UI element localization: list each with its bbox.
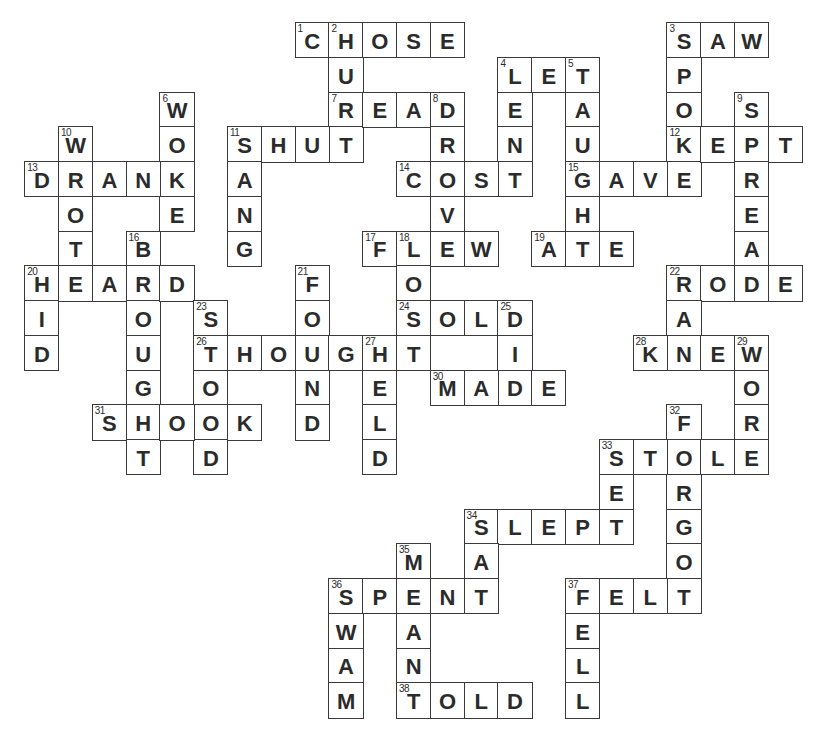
crossword-cell[interactable]: T: [328, 126, 363, 162]
crossword-cell[interactable]: 30M: [430, 370, 465, 406]
crossword-cell[interactable]: E: [58, 265, 93, 301]
crossword-cell[interactable]: D: [497, 682, 532, 718]
crossword-cell[interactable]: R: [430, 126, 465, 162]
crossword-cell[interactable]: A: [700, 22, 735, 58]
crossword-cell[interactable]: P: [734, 126, 769, 162]
crossword-cell[interactable]: A: [92, 265, 127, 301]
crossword-cell[interactable]: T: [464, 578, 499, 614]
crossword-cell[interactable]: G: [227, 231, 262, 267]
crossword-cell[interactable]: 8D: [430, 92, 465, 128]
crossword-cell[interactable]: H: [126, 404, 161, 440]
crossword-cell[interactable]: O: [430, 161, 465, 197]
crossword-cell[interactable]: I: [24, 300, 59, 336]
crossword-cell[interactable]: L: [700, 439, 735, 475]
crossword-cell[interactable]: W: [464, 231, 499, 267]
crossword-cell[interactable]: E: [497, 92, 532, 128]
crossword-cell[interactable]: E: [666, 161, 701, 197]
crossword-cell[interactable]: 5T: [565, 57, 600, 93]
crossword-cell[interactable]: E: [159, 196, 194, 232]
crossword-cell[interactable]: 31S: [92, 404, 127, 440]
crossword-cell[interactable]: H: [261, 126, 296, 162]
crossword-cell[interactable]: 1C: [295, 22, 330, 58]
crossword-cell[interactable]: D: [497, 370, 532, 406]
crossword-cell[interactable]: T: [396, 335, 431, 371]
crossword-cell[interactable]: D: [295, 404, 330, 440]
crossword-cell[interactable]: T: [599, 509, 634, 545]
crossword-cell[interactable]: A: [734, 231, 769, 267]
crossword-cell[interactable]: E: [396, 578, 431, 614]
crossword-cell[interactable]: 32F: [666, 404, 701, 440]
crossword-cell[interactable]: 19A: [531, 231, 566, 267]
crossword-cell[interactable]: E: [430, 231, 465, 267]
crossword-cell[interactable]: O: [396, 265, 431, 301]
crossword-cell[interactable]: U: [328, 57, 363, 93]
crossword-cell[interactable]: 33S: [599, 439, 634, 475]
crossword-cell[interactable]: O: [430, 300, 465, 336]
crossword-cell[interactable]: I: [497, 335, 532, 371]
crossword-cell[interactable]: 18L: [396, 231, 431, 267]
crossword-cell[interactable]: G: [328, 335, 363, 371]
crossword-cell[interactable]: T: [768, 126, 803, 162]
crossword-cell[interactable]: E: [362, 370, 397, 406]
crossword-cell[interactable]: R: [666, 474, 701, 510]
crossword-cell[interactable]: T: [126, 439, 161, 475]
crossword-cell[interactable]: 24S: [396, 300, 431, 336]
crossword-cell[interactable]: E: [430, 22, 465, 58]
crossword-cell[interactable]: S: [464, 161, 499, 197]
crossword-cell[interactable]: O: [193, 370, 228, 406]
crossword-cell[interactable]: E: [565, 613, 600, 649]
crossword-cell[interactable]: E: [599, 231, 634, 267]
crossword-cell[interactable]: S: [396, 22, 431, 58]
crossword-cell[interactable]: E: [734, 196, 769, 232]
crossword-cell[interactable]: A: [396, 613, 431, 649]
crossword-cell[interactable]: 25D: [497, 300, 532, 336]
crossword-cell[interactable]: 36S: [328, 578, 363, 614]
crossword-cell[interactable]: T: [666, 578, 701, 614]
crossword-cell[interactable]: A: [599, 161, 634, 197]
crossword-cell[interactable]: P: [666, 57, 701, 93]
crossword-cell[interactable]: E: [734, 439, 769, 475]
crossword-cell[interactable]: 23S: [193, 300, 228, 336]
crossword-cell[interactable]: 16B: [126, 231, 161, 267]
crossword-cell[interactable]: A: [396, 92, 431, 128]
crossword-cell[interactable]: O: [58, 196, 93, 232]
crossword-cell[interactable]: 9S: [734, 92, 769, 128]
crossword-cell[interactable]: E: [362, 92, 397, 128]
crossword-cell[interactable]: P: [362, 578, 397, 614]
crossword-cell[interactable]: M: [328, 682, 363, 718]
crossword-cell[interactable]: O: [159, 126, 194, 162]
crossword-cell[interactable]: O: [666, 543, 701, 579]
crossword-cell[interactable]: 3S: [666, 22, 701, 58]
crossword-cell[interactable]: E: [531, 509, 566, 545]
crossword-cell[interactable]: A: [666, 300, 701, 336]
crossword-cell[interactable]: E: [599, 578, 634, 614]
crossword-cell[interactable]: 29W: [734, 335, 769, 371]
crossword-cell[interactable]: 37F: [565, 578, 600, 614]
crossword-cell[interactable]: D: [159, 265, 194, 301]
crossword-cell[interactable]: O: [666, 439, 701, 475]
crossword-cell[interactable]: W: [734, 22, 769, 58]
crossword-cell[interactable]: N: [396, 648, 431, 684]
crossword-cell[interactable]: 7R: [328, 92, 363, 128]
crossword-cell[interactable]: H: [227, 335, 262, 371]
crossword-cell[interactable]: 4L: [497, 57, 532, 93]
crossword-cell[interactable]: 12K: [666, 126, 701, 162]
crossword-cell[interactable]: A: [92, 161, 127, 197]
crossword-cell[interactable]: V: [430, 196, 465, 232]
crossword-cell[interactable]: N: [430, 578, 465, 614]
crossword-cell[interactable]: R: [734, 404, 769, 440]
crossword-cell[interactable]: 15G: [565, 161, 600, 197]
crossword-cell[interactable]: O: [193, 404, 228, 440]
crossword-cell[interactable]: 13D: [24, 161, 59, 197]
crossword-cell[interactable]: E: [768, 265, 803, 301]
crossword-cell[interactable]: L: [565, 682, 600, 718]
crossword-cell[interactable]: A: [227, 161, 262, 197]
crossword-cell[interactable]: E: [531, 370, 566, 406]
crossword-cell[interactable]: 17F: [362, 231, 397, 267]
crossword-cell[interactable]: 20H: [24, 265, 59, 301]
crossword-cell[interactable]: 14C: [396, 161, 431, 197]
crossword-cell[interactable]: A: [565, 92, 600, 128]
crossword-cell[interactable]: V: [633, 161, 668, 197]
crossword-cell[interactable]: O: [734, 370, 769, 406]
crossword-cell[interactable]: N: [126, 161, 161, 197]
